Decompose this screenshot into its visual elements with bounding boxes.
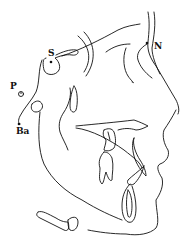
frontal-bone-outer	[148, 12, 179, 114]
nasal-bone	[137, 44, 152, 78]
landmark-label-ba: Ba	[16, 127, 29, 136]
lower-molar	[99, 152, 113, 184]
condyle-articular	[31, 101, 42, 112]
symphysis-inner	[127, 190, 133, 217]
maxilla-outline	[76, 128, 142, 168]
nasion-point	[146, 42, 149, 45]
ramus-anterior	[59, 88, 70, 150]
basion-point	[18, 123, 21, 126]
orbital-roof	[106, 44, 134, 83]
hyoid-horn	[68, 217, 78, 230]
landmark-label-n: N	[154, 42, 162, 51]
upper-molar	[103, 129, 115, 151]
anterior-cranial-base	[62, 24, 140, 56]
ramus-posterior	[39, 112, 122, 220]
cephalometric-tracing	[0, 0, 191, 247]
symphysis	[122, 184, 136, 222]
orbit-lines	[78, 32, 93, 76]
hyoid-body	[37, 211, 69, 230]
landmark-label-p: P	[10, 82, 17, 91]
landmark-label-s: S	[48, 49, 55, 58]
sella-point	[50, 61, 53, 64]
palatal-plane	[76, 120, 148, 130]
porion-point	[20, 92, 22, 94]
lower-incisor	[127, 166, 144, 185]
coronoid	[70, 86, 77, 112]
